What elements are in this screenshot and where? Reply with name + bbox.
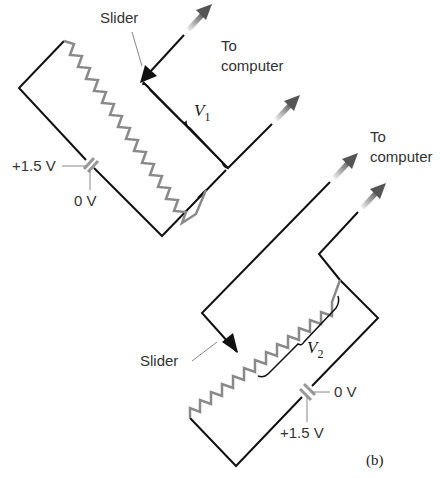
potentiometer-diagram: Slider To computer V1 +1.5 V 0 V To comp… <box>0 0 446 478</box>
lower-battery-positive-label: +1.5 V <box>280 425 324 440</box>
upper-circuit <box>19 4 300 236</box>
lower-end-output-wire <box>319 212 358 280</box>
lower-circuit <box>190 153 386 466</box>
lower-voltage-symbol: V <box>307 338 317 357</box>
upper-output-label-line1: To <box>221 37 237 56</box>
upper-battery-ground-label: 0 V <box>74 193 97 208</box>
upper-slider-output-arrow-icon <box>188 4 212 30</box>
lower-output-label-line1: To <box>370 128 386 147</box>
upper-battery-positive-label: +1.5 V <box>12 158 56 173</box>
lower-slider-arrowhead-icon <box>222 333 238 353</box>
figure-label: (b) <box>366 452 384 469</box>
lower-slider-leader <box>192 342 217 361</box>
lower-end-output-arrow-icon <box>362 183 386 208</box>
upper-output-label-line2: computer <box>221 57 284 76</box>
upper-voltage-symbol: V <box>194 101 204 120</box>
lower-slider-output-arrow-icon <box>334 153 358 178</box>
upper-v1-brace-icon <box>142 84 228 168</box>
upper-end-output-arrow-icon <box>276 95 300 120</box>
upper-voltage-subscript: 1 <box>204 110 210 124</box>
upper-loop-wire <box>19 41 86 160</box>
upper-slider-label: Slider <box>100 10 138 25</box>
upper-slider-output-wire <box>143 82 272 168</box>
lower-voltage-subscript: 2 <box>317 347 323 361</box>
lower-slider-label: Slider <box>140 353 178 368</box>
upper-voltage-label: V1 <box>194 102 210 123</box>
lower-output-label-line2: computer <box>370 148 433 167</box>
lower-battery-ground-label: 0 V <box>334 384 357 399</box>
lower-loop-wire <box>312 280 378 386</box>
lower-voltage-label: V2 <box>307 339 323 360</box>
